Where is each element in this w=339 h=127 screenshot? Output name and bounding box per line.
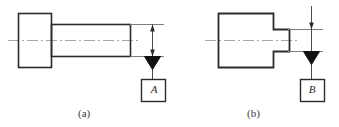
technical-drawing-figure: A B (a) (b) bbox=[0, 0, 339, 127]
dimension-arrowhead-b-down bbox=[309, 23, 314, 30]
dimension-arrowhead-a-up bbox=[150, 25, 155, 32]
drawing-canvas bbox=[0, 0, 339, 127]
datum-letter-a: A bbox=[142, 83, 166, 95]
datum-letter-b: B bbox=[300, 83, 324, 95]
dimension-arrowhead-a-down bbox=[150, 50, 155, 57]
subfigure-caption-b: (b) bbox=[247, 107, 260, 119]
datum-triangle-b bbox=[304, 52, 320, 65]
datum-triangle-a bbox=[145, 57, 161, 70]
subfigure-caption-a: (a) bbox=[78, 107, 90, 119]
